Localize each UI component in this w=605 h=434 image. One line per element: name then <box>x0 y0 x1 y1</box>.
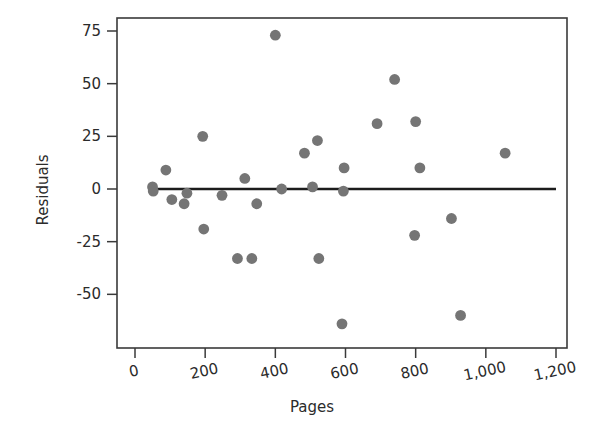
x-tick-label: 200 <box>188 359 220 383</box>
plot-canvas: 02004006008001,0001,200 -50-250255075 Pa… <box>0 0 605 434</box>
data-point <box>410 116 421 127</box>
data-point <box>455 310 466 321</box>
y-tick-label: -50 <box>77 285 102 303</box>
data-point <box>446 213 457 224</box>
data-point <box>414 163 425 174</box>
axes-frame <box>117 18 567 348</box>
y-tick-label: 0 <box>91 180 101 198</box>
x-tick-label: 1,000 <box>462 358 508 385</box>
x-tick-label: 0 <box>127 361 140 381</box>
data-point <box>166 194 177 205</box>
y-tick-label: 75 <box>82 22 101 40</box>
data-point <box>372 118 383 129</box>
data-point <box>197 131 208 142</box>
y-tick-labels: -50-250255075 <box>77 22 102 303</box>
data-point <box>270 30 281 41</box>
x-tick-labels: 02004006008001,0001,200 <box>127 358 577 385</box>
data-point <box>148 186 159 197</box>
x-tick-label: 400 <box>258 359 290 383</box>
data-point <box>409 230 420 241</box>
y-tick-label: 50 <box>82 75 101 93</box>
data-point <box>337 318 348 329</box>
x-tick-label: 600 <box>329 359 361 383</box>
y-axis-ticks <box>107 31 117 294</box>
data-point <box>276 184 287 195</box>
y-axis-title: Residuals <box>34 154 52 225</box>
data-point <box>239 173 250 184</box>
data-point <box>182 188 193 199</box>
data-point <box>232 253 243 264</box>
x-axis-ticks <box>135 348 556 358</box>
x-axis-title: Pages <box>290 398 334 416</box>
data-point <box>500 148 511 159</box>
data-point <box>339 163 350 174</box>
y-tick-label: 25 <box>82 127 101 145</box>
data-point <box>389 74 400 85</box>
residual-plot: 02004006008001,0001,200 -50-250255075 Pa… <box>0 0 605 434</box>
data-point <box>299 148 310 159</box>
data-point <box>160 165 171 176</box>
x-tick-label: 800 <box>399 359 431 383</box>
data-point <box>312 135 323 146</box>
data-point <box>307 181 318 192</box>
y-tick-label: -25 <box>77 233 102 251</box>
data-point <box>217 190 228 201</box>
data-point <box>198 224 209 235</box>
data-point <box>313 253 324 264</box>
x-tick-label: 1,200 <box>532 358 578 385</box>
data-point <box>246 253 257 264</box>
data-point <box>179 198 190 209</box>
data-point <box>338 186 349 197</box>
data-point <box>251 198 262 209</box>
data-points <box>147 30 510 329</box>
